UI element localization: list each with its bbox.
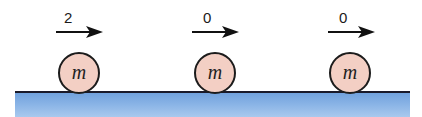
ground-surface	[15, 92, 410, 117]
ball-mass-label-3: m	[343, 62, 357, 82]
ball-1: m	[58, 52, 100, 94]
ball-mass-label-2: m	[208, 62, 222, 82]
velocity-label-2: 0	[203, 10, 211, 25]
ball-3: m	[329, 52, 371, 94]
ball-2: m	[194, 52, 236, 94]
ball-mass-label-1: m	[72, 62, 86, 82]
velocity-arrow-icon-2	[192, 25, 240, 39]
velocity-label-1: 2	[64, 10, 72, 25]
velocity-label-3: 0	[339, 10, 347, 25]
collision-diagram: 2 m 0 m 0 m	[0, 0, 422, 117]
velocity-arrow-icon-1	[56, 25, 104, 39]
velocity-arrow-icon-3	[328, 25, 376, 39]
